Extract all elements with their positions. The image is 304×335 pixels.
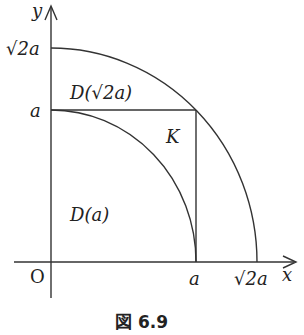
y-axis-label: y [32,2,42,20]
x-axis-label: x [282,266,292,284]
x-tick-sqrt2a: √2a [234,270,268,288]
region-label-outer: D(√2a) [70,84,132,102]
region-label-k: K [166,128,179,146]
x-tick-a: a [189,270,200,288]
figure-caption: 図 6.9 [115,308,168,333]
y-tick-sqrt2a: √2a [6,40,40,58]
y-tick-a: a [30,102,41,120]
origin-label: O [30,268,45,286]
region-label-inner: D(a) [70,206,109,224]
